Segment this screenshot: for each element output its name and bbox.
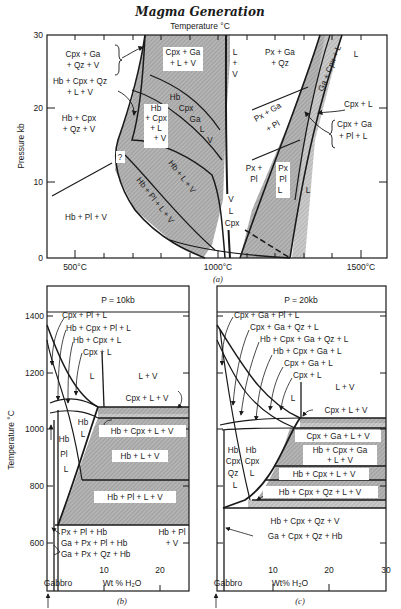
label-l: L <box>90 372 95 381</box>
magma-generation-figure: Magma Generation Temperature °C <box>0 0 401 609</box>
label-hb-cpx-ga-l-v-4: L <box>200 125 205 134</box>
panel-c-x-tick-20: 20 <box>324 565 334 575</box>
panel-b-y-tick-1400: 1400 <box>25 311 44 321</box>
label-ga-px-qz-hb: Ga + Px + Qz + Hb <box>61 550 131 559</box>
label-cpx-l: Cpx + L <box>83 348 112 357</box>
panel-a-x-tick-1000: 1000°C <box>204 262 232 272</box>
figure-title: Magma Generation <box>134 5 264 19</box>
label-hb-cpx-qz-l-v: Hb + Cpx + Qz <box>53 77 107 86</box>
panel-c: 10 20 30 Gabbro Wt% H₂O (c) P = 20kb Cpx… <box>214 286 391 608</box>
label-ga-px-pl-hb: Ga + Px + Pl + Hb <box>61 539 128 548</box>
panel-a-y-tick-30: 30 <box>34 30 44 40</box>
label-hb-cpx-qz-v: Hb + Cpx <box>62 114 96 123</box>
label-hb-cpx-ga-l-v: Hb <box>170 93 181 102</box>
panel-b-header: P = 10kb <box>101 295 135 305</box>
panel-b-y-tick-1000: 1000 <box>25 424 44 434</box>
panel-a-x-axis-title: Temperature °C <box>170 21 230 31</box>
label-l-v: L <box>233 48 238 57</box>
label-v-l-cpx: V <box>228 195 234 204</box>
label-cpx-pl-l: Cpx + Pl + L <box>62 311 108 320</box>
panel-b-caption: (b) <box>117 596 127 606</box>
panel-a-y-tick-0: 0 <box>38 253 43 263</box>
label-cpx-ga-qz-l: Cpx + Ga + Qz + L <box>250 323 319 332</box>
label-px-ga-qz-2: + Qz <box>271 59 289 68</box>
label-hb-cpx-qz-l-3: Qz <box>228 469 238 478</box>
label-hb-pl-l-2: Pl <box>60 450 67 459</box>
label-l: L <box>291 394 296 403</box>
label-cpx-ga-qz-v-2: + Qz + V <box>67 61 100 70</box>
panel-c-x-tick-10: 10 <box>268 565 278 575</box>
label-l-v-2: + <box>233 59 238 68</box>
label-l-right: L <box>306 186 311 195</box>
panel-a-y-tick-20: 20 <box>34 103 44 113</box>
panel-c-x-tick-30: 30 <box>381 565 391 575</box>
label-l-top: L <box>354 50 359 59</box>
panel-b-y-tick-1200: 1200 <box>25 368 44 378</box>
label-px-pl: Px + <box>246 164 263 173</box>
label-l-v-3: V <box>232 70 238 79</box>
label-cpx-l-v: Cpx + L + V <box>126 394 169 403</box>
label-hb-cpx-qz-v: Hb + Cpx + Qz + V <box>271 517 340 526</box>
label-cpx-ga-pl-l-2: + Pl + L <box>339 132 368 141</box>
panel-c-header: P = 20kb <box>284 295 318 305</box>
label-question: ? <box>118 153 123 162</box>
label-hb-cpx-l-v-3: + L <box>150 124 162 133</box>
label-px-pl-hb: Px + Pl + Hb <box>61 528 107 537</box>
panel-c-x-axis-title: Wt% H₂O <box>272 578 309 588</box>
panel-b-y-tick-800: 800 <box>30 481 44 491</box>
label-hb-cpx-ga-l-v-5: V <box>207 136 213 145</box>
panel-b: 1400 1200 1000 800 600 Temperature °C 10… <box>6 286 189 608</box>
label-l-v: L + V <box>335 383 355 392</box>
label-px-pl-l: Px <box>278 164 288 173</box>
label-px-pl-2: Pl <box>250 175 257 184</box>
label-hb-cpx-pl-l: Hb + Cpx + Pl + L <box>66 324 131 333</box>
label-hb-cpx-l-v-4: + V <box>154 134 167 143</box>
panel-b-y-axis-title: Temperature °C <box>6 410 16 470</box>
label-hb-pl-l-3: L <box>64 465 69 474</box>
label-cpx-ga-pl-l: Cpx + Ga + Pl + L <box>234 311 300 320</box>
label-cpx-l: Cpx + L <box>344 100 373 109</box>
label-hb-cpx-qz-l-v-2: + L + V <box>67 88 94 97</box>
label-hb-pl-l-v: Hb + Pl + L + V <box>107 493 163 502</box>
label-hb-cpx-qz-l-v: Hb + Cpx + Qz + L + V <box>279 488 362 497</box>
label-hb-cpx-qz-v-2: + Qz + V <box>63 125 96 134</box>
label-cpx-l: Cpx + L <box>293 371 322 380</box>
label-hb-l-v: Hb + L + V <box>121 452 160 461</box>
label-hb-pl-v: Hb + Pl + V <box>65 213 107 222</box>
label-hb-cpx-l-2: Cpx <box>245 457 260 466</box>
label-hb-cpx-qz-l-2: Cpx <box>226 457 241 466</box>
label-hb-cpx-l-v: Hb + Cpx + L + V <box>111 427 174 436</box>
panel-c-gabbro-label: Gabbro <box>214 578 243 588</box>
label-hb-cpx-ga-l-v-2: + L + V <box>327 456 354 465</box>
label-hb-cpx-ga-l-v: Hb + Cpx + Ga <box>313 446 368 455</box>
panel-a-y-axis-title: Pressure kb <box>16 123 26 169</box>
panel-a-y-tick-10: 10 <box>34 177 44 187</box>
label-hb-l: Hb <box>78 418 89 427</box>
label-cpx-ga-l-v-2: + L + V <box>170 59 197 68</box>
label-cpx-ga-l-v: Cpx + Ga <box>166 48 201 57</box>
label-ga-cpx-qz-hb: Ga + Cpx + Qz + Hb <box>268 532 343 541</box>
label-hb-cpx-ga-l-v-3: Ga <box>190 115 201 124</box>
label-l-v: L + V <box>138 372 158 381</box>
label-hb-cpx-l: Hb <box>246 446 257 455</box>
label-cpx-ga-pl-l: Cpx + Ga <box>337 120 372 129</box>
label-cpx-ga-qz-v: Cpx + Ga <box>66 50 101 59</box>
label-hb-cpx-l-3: L <box>250 469 255 478</box>
label-hb-cpx-ga-qz-l: Hb + Cpx + Ga + Qz + L <box>260 335 349 344</box>
panel-b-x-tick-20: 20 <box>155 565 165 575</box>
label-hb-cpx-l-v-2: + Cpx <box>145 114 167 123</box>
label-hb-cpx-l-v: Hb + Cpx + L + V <box>293 470 356 479</box>
label-hb-cpx-l-v: Hb <box>151 104 162 113</box>
label-hb-pl-l: Hb <box>59 435 70 444</box>
panel-b-x-axis-title: Wt % H₂O <box>103 578 142 588</box>
panel-b-gabbro-label: Gabbro <box>44 578 73 588</box>
panel-a-caption: (a) <box>213 274 223 284</box>
panel-a-x-tick-1500: 1500°C <box>347 262 375 272</box>
label-px-pl-l-2: Pl <box>279 175 286 184</box>
label-cpx-ga-l: Cpx + Ga + L <box>284 359 333 368</box>
panel-a-x-tick-500: 500°C <box>63 262 87 272</box>
label-cpx-ga-l-v: Cpx + Ga + L + V <box>306 432 370 441</box>
panel-b-y-tick-600: 600 <box>30 538 44 548</box>
panel-a: 30 20 10 0 500°C 1000°C 1500°C Pressure … <box>16 30 387 284</box>
label-hb-cpx-ga-l-v-2: Cpx <box>179 104 194 113</box>
